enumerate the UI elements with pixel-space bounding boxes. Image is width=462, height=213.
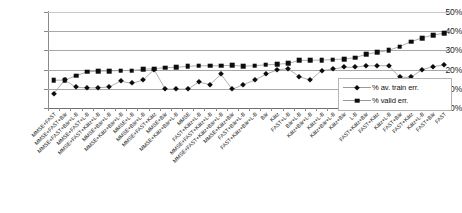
data-point xyxy=(196,63,201,68)
data-point xyxy=(251,77,257,83)
data-point xyxy=(385,63,391,69)
data-point xyxy=(274,67,280,73)
data-point xyxy=(286,61,291,66)
chart-legend: % av. train err. % valid err. xyxy=(338,78,452,111)
data-point xyxy=(342,57,347,62)
data-point xyxy=(419,66,425,72)
data-point xyxy=(297,58,302,63)
data-point xyxy=(96,69,101,74)
data-point xyxy=(129,80,135,86)
chart-container: 50% 40% 30% 20% 10% 0% MMSE+FASTMMSE+FAS… xyxy=(0,0,462,213)
data-point xyxy=(308,58,313,63)
data-point xyxy=(352,64,358,70)
data-point xyxy=(74,73,79,78)
data-point xyxy=(230,63,235,68)
data-point xyxy=(263,63,268,68)
data-point xyxy=(341,64,347,70)
data-point xyxy=(430,64,436,70)
legend-label: % av. train err. xyxy=(372,83,419,92)
data-point xyxy=(62,78,67,83)
data-point xyxy=(374,63,380,69)
data-point xyxy=(409,39,414,44)
data-point xyxy=(163,65,168,70)
data-point xyxy=(140,77,146,83)
data-point xyxy=(296,74,302,80)
legend-label: % valid err. xyxy=(372,96,408,105)
data-point xyxy=(364,52,369,57)
data-point xyxy=(51,78,56,83)
x-axis-label: Bär xyxy=(259,111,269,121)
data-point xyxy=(330,66,336,72)
data-point xyxy=(442,31,447,36)
data-point xyxy=(117,78,123,84)
data-point xyxy=(431,33,436,38)
data-point xyxy=(152,66,157,71)
data-point xyxy=(84,85,90,91)
data-point xyxy=(275,62,280,67)
data-point xyxy=(196,79,202,85)
legend-marker-diamond xyxy=(342,82,372,93)
data-point xyxy=(218,71,224,77)
data-point xyxy=(386,48,391,53)
legend-item-train: % av. train err. xyxy=(342,81,448,94)
data-point xyxy=(229,86,235,92)
data-point xyxy=(307,77,313,83)
data-point xyxy=(73,84,79,90)
data-point xyxy=(95,85,101,91)
data-point xyxy=(420,36,425,41)
legend-item-valid: % valid err. xyxy=(342,94,448,107)
legend-marker-square xyxy=(342,95,372,106)
data-point xyxy=(318,67,324,73)
data-point xyxy=(184,86,190,92)
data-point xyxy=(397,44,402,49)
data-point xyxy=(162,86,168,92)
data-point xyxy=(50,90,56,96)
data-point xyxy=(174,65,179,70)
data-point xyxy=(330,57,335,62)
data-point xyxy=(241,64,246,69)
x-axis-labels: MMSE+FASTMMSE+FAST+BärMMSE+FAST+Bär+L-BM… xyxy=(0,109,462,213)
data-point xyxy=(173,86,179,92)
data-point xyxy=(240,81,246,87)
data-point xyxy=(129,68,134,73)
data-point xyxy=(106,84,112,90)
data-point xyxy=(185,64,190,69)
data-point xyxy=(353,55,358,60)
data-point xyxy=(141,67,146,72)
data-point xyxy=(263,71,269,77)
data-point xyxy=(85,70,90,75)
data-point xyxy=(252,63,257,68)
data-point xyxy=(441,62,447,68)
data-point xyxy=(219,63,224,68)
data-point xyxy=(363,63,369,69)
data-point xyxy=(208,63,213,68)
data-point xyxy=(107,69,112,74)
x-axis-label: FAST xyxy=(434,111,448,125)
data-point xyxy=(285,66,291,72)
data-point xyxy=(207,81,213,87)
data-point xyxy=(375,50,380,55)
data-point xyxy=(319,58,324,63)
data-point xyxy=(118,68,123,73)
